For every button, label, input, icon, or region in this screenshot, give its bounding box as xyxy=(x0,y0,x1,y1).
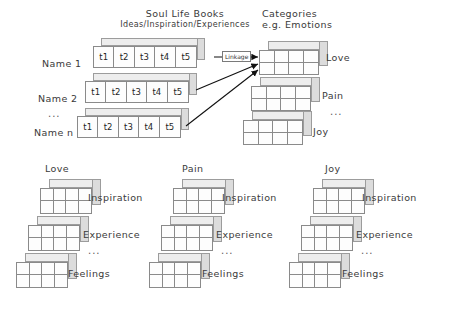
category-cube-pain[interactable] xyxy=(251,86,311,111)
tier-sub-cell[interactable] xyxy=(302,238,315,250)
category-sub-cell[interactable] xyxy=(281,99,296,111)
category-sub-cell[interactable] xyxy=(289,63,304,75)
category-sub-cell[interactable] xyxy=(252,87,267,99)
tier-sub-cell[interactable] xyxy=(199,201,212,213)
book-cell[interactable]: t1 xyxy=(94,47,114,67)
tier-sub-cell[interactable] xyxy=(188,275,201,287)
tier-sub-cell[interactable] xyxy=(175,275,188,287)
tier-sub-cell[interactable] xyxy=(327,201,340,213)
tier-sub-cell[interactable] xyxy=(17,275,30,287)
tier-sub-cell[interactable] xyxy=(327,238,340,250)
tier-sub-cell[interactable] xyxy=(314,201,327,213)
category-sub-cell[interactable] xyxy=(304,51,319,63)
category-sub-cell[interactable] xyxy=(273,121,288,133)
tier-sub-cell[interactable] xyxy=(174,201,187,213)
tier-sub-cell[interactable] xyxy=(150,263,163,275)
tier-sub-cell[interactable] xyxy=(54,226,67,238)
category-sub-cell[interactable] xyxy=(273,133,288,145)
pain-tier-feelings[interactable] xyxy=(149,262,201,288)
tier-sub-cell[interactable] xyxy=(162,226,175,238)
book-cell[interactable]: t5 xyxy=(160,117,180,137)
tier-sub-cell[interactable] xyxy=(55,275,68,287)
category-sub-cell[interactable] xyxy=(252,99,267,111)
pain-tier-experience[interactable] xyxy=(161,225,213,251)
tier-sub-cell[interactable] xyxy=(175,238,188,250)
love-tier-inspiration[interactable] xyxy=(40,188,92,214)
tier-sub-cell[interactable] xyxy=(328,275,341,287)
category-cube-joy[interactable] xyxy=(243,120,303,145)
tier-sub-cell[interactable] xyxy=(42,238,55,250)
tier-sub-cell[interactable] xyxy=(340,226,353,238)
tier-sub-cell[interactable] xyxy=(187,201,200,213)
tier-sub-cell[interactable] xyxy=(315,226,328,238)
tier-sub-cell[interactable] xyxy=(328,263,341,275)
book-cell[interactable]: t4 xyxy=(139,117,159,137)
book-cell[interactable]: t2 xyxy=(106,82,126,102)
category-sub-cell[interactable] xyxy=(275,51,290,63)
books-row-name-1[interactable]: t1 t2 t3 t4 t5 xyxy=(93,46,197,68)
category-sub-cell[interactable] xyxy=(281,87,296,99)
tier-sub-cell[interactable] xyxy=(66,189,79,201)
tier-sub-cell[interactable] xyxy=(188,263,201,275)
category-sub-cell[interactable] xyxy=(275,63,290,75)
tier-sub-cell[interactable] xyxy=(17,263,30,275)
tier-sub-cell[interactable] xyxy=(187,226,200,238)
joy-tier-feelings[interactable] xyxy=(289,262,341,288)
book-cell[interactable]: t2 xyxy=(114,47,134,67)
tier-sub-cell[interactable] xyxy=(162,238,175,250)
tier-sub-cell[interactable] xyxy=(54,238,67,250)
joy-tier-inspiration[interactable] xyxy=(313,188,365,214)
tier-sub-cell[interactable] xyxy=(66,201,79,213)
tier-sub-cell[interactable] xyxy=(315,263,328,275)
book-cell[interactable]: t3 xyxy=(119,117,139,137)
books-row-name-n[interactable]: t1 t2 t3 t4 t5 xyxy=(77,116,181,138)
category-sub-cell[interactable] xyxy=(260,51,275,63)
tier-sub-cell[interactable] xyxy=(54,201,67,213)
pain-tier-inspiration[interactable] xyxy=(173,188,225,214)
tier-sub-cell[interactable] xyxy=(55,263,68,275)
tier-sub-cell[interactable] xyxy=(339,201,352,213)
category-sub-cell[interactable] xyxy=(288,133,303,145)
category-sub-cell[interactable] xyxy=(260,63,275,75)
book-cell[interactable]: t4 xyxy=(147,82,167,102)
joy-tier-experience[interactable] xyxy=(301,225,353,251)
category-sub-cell[interactable] xyxy=(289,51,304,63)
tier-sub-cell[interactable] xyxy=(30,275,43,287)
tier-sub-cell[interactable] xyxy=(42,275,55,287)
category-sub-cell[interactable] xyxy=(296,87,311,99)
books-row-name-2[interactable]: t1 t2 t3 t4 t5 xyxy=(85,81,189,103)
book-cell[interactable]: t1 xyxy=(86,82,106,102)
tier-sub-cell[interactable] xyxy=(327,226,340,238)
category-sub-cell[interactable] xyxy=(288,121,303,133)
tier-sub-cell[interactable] xyxy=(314,189,327,201)
tier-sub-cell[interactable] xyxy=(199,189,212,201)
tier-sub-cell[interactable] xyxy=(327,189,340,201)
book-cell[interactable]: t5 xyxy=(176,47,196,67)
tier-sub-cell[interactable] xyxy=(41,201,54,213)
tier-sub-cell[interactable] xyxy=(187,189,200,201)
tier-sub-cell[interactable] xyxy=(303,275,316,287)
tier-sub-cell[interactable] xyxy=(303,263,316,275)
tier-sub-cell[interactable] xyxy=(175,263,188,275)
tier-sub-cell[interactable] xyxy=(290,263,303,275)
tier-sub-cell[interactable] xyxy=(67,238,80,250)
tier-sub-cell[interactable] xyxy=(290,275,303,287)
tier-sub-cell[interactable] xyxy=(42,226,55,238)
book-cell[interactable]: t4 xyxy=(155,47,175,67)
category-sub-cell[interactable] xyxy=(259,133,274,145)
tier-sub-cell[interactable] xyxy=(200,238,213,250)
category-sub-cell[interactable] xyxy=(259,121,274,133)
tier-sub-cell[interactable] xyxy=(200,226,213,238)
tier-sub-cell[interactable] xyxy=(174,189,187,201)
category-sub-cell[interactable] xyxy=(267,99,282,111)
category-sub-cell[interactable] xyxy=(267,87,282,99)
tier-sub-cell[interactable] xyxy=(175,226,188,238)
category-sub-cell[interactable] xyxy=(244,121,259,133)
tier-sub-cell[interactable] xyxy=(187,238,200,250)
tier-sub-cell[interactable] xyxy=(150,275,163,287)
tier-sub-cell[interactable] xyxy=(29,238,42,250)
tier-sub-cell[interactable] xyxy=(42,263,55,275)
tier-sub-cell[interactable] xyxy=(315,275,328,287)
category-cube-love[interactable] xyxy=(259,50,319,75)
tier-sub-cell[interactable] xyxy=(339,189,352,201)
